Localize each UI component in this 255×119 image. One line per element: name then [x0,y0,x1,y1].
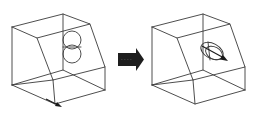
block-transform-diagram [0,0,255,119]
right-arrow-icon [118,48,144,71]
block-after [152,14,245,104]
circle-feature-icon [63,31,81,63]
block-before [12,14,105,107]
diagram-canvas [0,0,255,119]
